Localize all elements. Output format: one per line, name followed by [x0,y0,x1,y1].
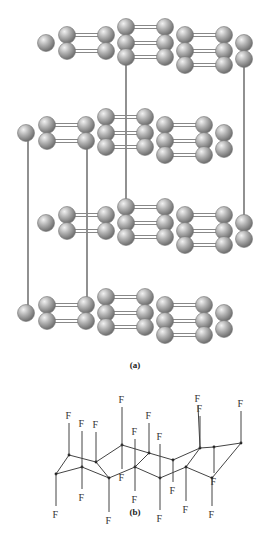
atom-sphere [59,207,76,224]
atom-sphere [196,327,213,344]
atom-sphere [236,51,253,68]
atom-sphere [38,35,55,52]
atom-sphere [157,229,174,246]
atom-sphere [216,125,233,142]
fluorine-atom-label: F [79,418,85,429]
fluorine-atom-label: F [53,509,59,520]
atom-layers [18,19,253,344]
atom-sphere [98,27,115,44]
atom-sphere [39,313,56,330]
fluorine-atom-label: F [197,403,203,414]
atom-sphere [78,117,95,134]
fluorine-atom-label: F [183,504,189,515]
atom-sphere [18,305,35,322]
atom-sphere [118,229,135,246]
atom-sphere [157,117,174,134]
crystal-structure-panel-a [0,0,271,360]
fluorine-atom-label: F [209,509,215,520]
atom-sphere [38,215,55,232]
atom-sphere [177,27,194,44]
panel-b-caption: (b) [115,507,155,517]
fluorine-atom-label: F [119,394,125,405]
atom-sphere [216,305,233,322]
fluorine-atom-label: F [211,476,217,487]
atom-sphere [196,147,213,164]
atom-sphere [78,133,95,150]
atom-sphere [196,117,213,134]
atom-sphere [157,199,174,216]
atom-sphere [177,57,194,74]
atom-sphere [236,231,253,248]
atom-sphere [118,19,135,36]
atom-sphere [216,57,233,74]
atom-sphere [216,141,233,158]
fluorine-atom-label: F [93,419,99,430]
atom-sphere [157,297,174,314]
c-c-bond [135,467,160,478]
atom-sphere [59,27,76,44]
atom-sphere [78,313,95,330]
atom-layer-4 [18,289,233,344]
c-c-bond [96,445,122,462]
atom-sphere [78,297,95,314]
atom-sphere [98,207,115,224]
atom-sphere [137,109,154,126]
atom-layer-3 [38,199,253,254]
atom-sphere [216,207,233,224]
fluorine-atom-label: F [66,410,72,421]
atom-sphere [39,133,56,150]
fluorine-atom-label: F [157,513,163,524]
atom-sphere [216,321,233,338]
figure: (a) FFFFFFFFFFFFFFFFFFFF (b) [0,0,271,533]
c-c-bond [200,447,214,448]
fluorine-atom-label: F [132,426,138,437]
fluorine-atom-label: F [195,393,201,404]
atom-sphere [98,289,115,306]
atom-sphere [98,319,115,336]
atom-sphere [118,199,135,216]
fluorine-atom-label: F [238,398,244,409]
atom-sphere [18,125,35,142]
atom-sphere [137,319,154,336]
atom-sphere [118,49,135,66]
panel-a-caption: (a) [115,360,155,370]
atom-sphere [157,49,174,66]
atom-sphere [236,35,253,52]
atom-sphere [236,215,253,232]
fluorine-atom-label: F [157,431,163,442]
atom-sphere [196,297,213,314]
atom-sphere [177,207,194,224]
unit-cell-lines [28,57,244,318]
fluorine-atom-label: F [106,515,112,525]
atom-sphere [157,327,174,344]
fluorine-labels: FFFFFFFFFFFFFFFFFFFF [53,393,244,525]
atom-layer-2 [18,109,233,164]
atom-sphere [59,223,76,240]
fluorine-atom-label: F [146,410,152,421]
fluorine-atom-label: F [132,494,138,505]
c-c-bond [212,443,241,478]
atom-sphere [39,117,56,134]
c-c-bond [149,453,173,460]
c-c-bond [214,443,241,447]
atom-sphere [177,237,194,254]
atom-sphere [59,43,76,60]
atom-sphere [157,19,174,36]
atom-sphere [39,297,56,314]
atom-layer-1 [38,19,253,74]
fluorocarbon-chain-panel-b: FFFFFFFFFFFFFFFFFFFF [0,375,271,525]
atom-sphere [137,139,154,156]
atom-sphere [216,27,233,44]
atom-sphere [98,223,115,240]
atom-sphere [98,43,115,60]
c-c-bond [186,467,212,478]
atom-sphere [216,237,233,254]
atom-sphere [137,289,154,306]
c-c-bond [135,453,149,467]
fluorine-atom-label: F [170,485,176,496]
fluorine-atom-label: F [119,472,125,483]
atom-sphere [98,139,115,156]
atom-sphere [157,147,174,164]
atom-sphere [98,109,115,126]
fluorine-atom-label: F [79,492,85,503]
